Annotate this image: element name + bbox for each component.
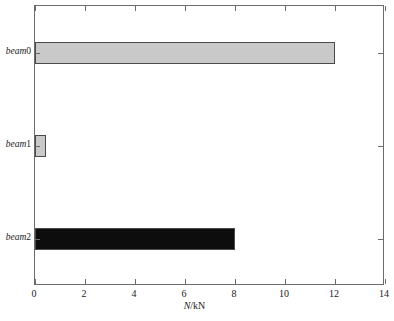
x-tick-top-0 xyxy=(35,6,36,11)
y-tick-label-beam1: beam1 xyxy=(0,139,31,150)
bar-beam2 xyxy=(35,228,235,250)
x-tick-top-6 xyxy=(185,6,186,11)
x-tick-label-6: 6 xyxy=(169,288,199,300)
x-tick-bottom-4 xyxy=(135,279,136,284)
x-tick-label-10: 10 xyxy=(269,288,299,300)
y-tick-right-beam1 xyxy=(378,146,383,147)
y-tick-right-beam2 xyxy=(378,239,383,240)
x-tick-bottom-6 xyxy=(185,279,186,284)
x-tick-top-8 xyxy=(235,6,236,11)
y-tick-right-beam0 xyxy=(378,53,383,54)
x-tick-label-12: 12 xyxy=(319,288,349,300)
y-tick-label-name: beam xyxy=(6,139,27,149)
y-tick-left-beam0 xyxy=(35,53,40,54)
x-axis-label: N/kN xyxy=(0,300,389,312)
x-tick-label-8: 8 xyxy=(219,288,249,300)
y-tick-left-beam1 xyxy=(35,146,40,147)
x-tick-bottom-8 xyxy=(235,279,236,284)
y-tick-label-beam0: beam0 xyxy=(0,46,31,57)
plot-area xyxy=(35,6,383,284)
x-tick-label-14: 14 xyxy=(369,288,394,300)
x-tick-bottom-10 xyxy=(285,279,286,284)
x-tick-top-10 xyxy=(285,6,286,11)
x-axis-label-unit: /kN xyxy=(190,300,205,311)
y-tick-label-name: beam xyxy=(6,46,27,56)
x-tick-bottom-12 xyxy=(335,279,336,284)
y-tick-label-index: 2 xyxy=(26,232,31,242)
x-tick-bottom-14 xyxy=(385,279,386,284)
y-tick-label-index: 0 xyxy=(26,46,31,56)
x-tick-top-12 xyxy=(335,6,336,11)
y-tick-left-beam2 xyxy=(35,239,40,240)
y-tick-label-name: beam xyxy=(6,232,27,242)
y-tick-label-index: 1 xyxy=(26,139,31,149)
y-tick-label-beam2: beam2 xyxy=(0,232,31,243)
bar-beam0 xyxy=(35,42,335,64)
x-tick-label-0: 0 xyxy=(19,288,49,300)
plot-frame xyxy=(34,5,384,285)
x-tick-top-14 xyxy=(385,6,386,11)
x-tick-bottom-2 xyxy=(85,279,86,284)
x-tick-top-2 xyxy=(85,6,86,11)
x-tick-label-2: 2 xyxy=(69,288,99,300)
x-tick-top-4 xyxy=(135,6,136,11)
x-tick-bottom-0 xyxy=(35,279,36,284)
x-tick-label-4: 4 xyxy=(119,288,149,300)
